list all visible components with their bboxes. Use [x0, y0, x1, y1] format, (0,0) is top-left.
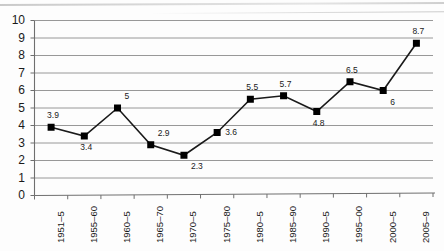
x-tick-label: 1995–00 [354, 206, 364, 243]
x-tick-label: 1980–5 [255, 211, 265, 243]
data-point-value-label: 8.7 [412, 27, 424, 36]
data-point-value-label: 2.3 [191, 162, 203, 171]
data-point-value-label: 5.7 [280, 80, 292, 89]
x-tick-label: 1960–5 [122, 211, 132, 243]
y-tick-label: 9 [3, 32, 25, 44]
data-point-value-label: 4.8 [313, 119, 325, 128]
data-point-marker [380, 87, 387, 94]
x-tick-label: 1990–5 [321, 211, 331, 243]
x-tick-label: 1970–5 [188, 211, 198, 243]
y-tick-label: 4 [3, 119, 25, 131]
y-tick-label: 10 [3, 14, 25, 26]
data-point-value-label: 3.6 [225, 128, 237, 137]
y-tick-label: 6 [3, 84, 25, 96]
data-point-value-label: 3.4 [80, 143, 92, 152]
data-point-value-label: 5 [125, 92, 130, 101]
series-markers-group [48, 40, 420, 159]
y-tick-label: 0 [3, 189, 25, 201]
x-tick-label: 1951–5 [56, 211, 66, 243]
y-tick-marks-group [31, 21, 35, 196]
series-line [51, 43, 416, 155]
x-tick-label: 1965–70 [155, 206, 165, 243]
y-tick-label: 7 [3, 67, 25, 79]
data-point-value-label: 6 [390, 98, 395, 107]
x-tick-label: 1955–60 [89, 206, 99, 243]
data-point-value-label: 2.9 [158, 129, 170, 138]
x-tick-label: 2000–5 [388, 211, 398, 243]
data-point-marker [313, 108, 320, 115]
x-tick-label: 1975–80 [222, 206, 232, 243]
y-tick-label: 5 [3, 102, 25, 114]
y-tick-label: 3 [3, 137, 25, 149]
data-point-marker [413, 40, 420, 47]
x-axis-line [35, 193, 436, 196]
x-tick-label: 2005–9 [421, 211, 431, 243]
data-point-marker [214, 129, 221, 136]
data-point-marker [48, 124, 55, 131]
data-point-value-label: 5.5 [246, 83, 258, 92]
data-point-marker [247, 96, 254, 103]
data-point-marker [147, 141, 154, 148]
data-point-value-label: 3.9 [47, 111, 59, 120]
x-tick-label: 1985–90 [288, 206, 298, 243]
y-tick-label: 2 [3, 154, 25, 166]
gridlines-group [35, 21, 434, 196]
data-point-marker [180, 152, 187, 159]
data-point-marker [346, 78, 353, 85]
chart-figure: 012345678910 1951–51955–601960–51965–701… [0, 0, 444, 251]
y-tick-label: 1 [3, 172, 25, 184]
data-point-marker [114, 105, 121, 112]
data-point-value-label: 6.5 [346, 66, 358, 75]
y-tick-label: 8 [3, 49, 25, 61]
data-point-marker [280, 92, 287, 99]
data-point-marker [81, 133, 88, 140]
